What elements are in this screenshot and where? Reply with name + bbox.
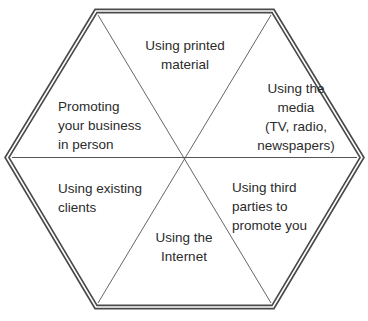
segment-label-third-parties: Using third parties to promote you <box>232 178 332 235</box>
segment-label-media: Using the media (TV, radio, newspapers) <box>250 79 342 155</box>
segment-label-promoting-in-person: Promoting your business in person <box>58 97 158 154</box>
segment-label-internet: Using the Internet <box>140 228 228 266</box>
segment-label-printed-material: Using printed material <box>137 36 233 74</box>
segment-label-existing-clients: Using existing clients <box>58 179 158 217</box>
